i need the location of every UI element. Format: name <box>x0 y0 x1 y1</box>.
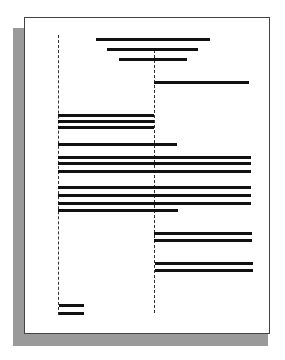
text-line-bar-right-block-2 <box>154 232 252 235</box>
text-line-bar-left-block-1 <box>58 114 154 117</box>
left-column-guide <box>58 35 59 315</box>
text-line-bar-title <box>107 48 198 51</box>
text-line-bar-footer <box>59 304 84 307</box>
text-line-bar-full-block <box>58 170 251 173</box>
text-line-bar-full-block <box>58 162 251 165</box>
text-line-bar-full-block-2 <box>58 209 178 212</box>
text-line-bar-full-block-2 <box>58 186 251 189</box>
text-line-bar-full-block <box>58 156 251 159</box>
center-column-guide <box>154 50 155 313</box>
text-line-bar-full-block-2 <box>58 202 251 205</box>
text-line-bar-right-block-3 <box>155 262 253 265</box>
text-line-bar-right-block-2 <box>154 239 252 242</box>
text-line-bar-footer <box>59 312 84 315</box>
text-line-bar-left-block-1 <box>58 120 154 123</box>
text-line-bar-title <box>96 38 210 41</box>
text-line-bar-right-block-1 <box>154 81 249 84</box>
text-line-bar-full-block <box>58 143 177 146</box>
text-line-bar-right-block-3 <box>155 269 253 272</box>
text-line-bar-title <box>119 58 187 61</box>
page-sheet <box>24 17 270 334</box>
text-line-bar-left-block-1 <box>58 126 154 129</box>
text-line-bar-full-block-2 <box>58 194 251 197</box>
